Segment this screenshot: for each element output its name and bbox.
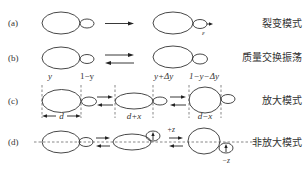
row-label-b: (b) (8, 53, 19, 63)
mass-label-y: y (47, 71, 52, 81)
right-arrow-icon (105, 22, 134, 26)
compressed-nucleus-ellipse (189, 87, 221, 113)
small-nucleus-ellipse (80, 55, 94, 64)
mass-label-1-minus-y-minus-dy: 1−y−Δy (189, 71, 219, 81)
small-nucleus-ellipse (221, 95, 235, 104)
mode-label-d: 非放大模式 (252, 136, 302, 148)
plus-z-label: +z (167, 125, 175, 134)
large-nucleus-ellipse (42, 90, 81, 113)
row-label-c: (c) (8, 96, 18, 106)
row-d: (d) +z − (8, 125, 302, 165)
stretched-nucleus-ellipse (113, 134, 151, 150)
left-arrow-icon (96, 144, 110, 147)
mode-label-c: 放大模式 (262, 94, 302, 106)
mode-label-b: 质量交换振荡 (242, 51, 302, 63)
right-arrow-icon (97, 95, 113, 98)
large-fragment-ellipse (153, 12, 193, 34)
row-a: (a) ε 裂变模式 (8, 12, 302, 37)
left-arrow-icon (169, 144, 183, 147)
row-label-d: (d) (8, 137, 19, 147)
fission-modes-diagram: (a) ε 裂变模式 (b) y 1−y y+Δy (0, 0, 308, 172)
mass-label-y-plus-dy: y+Δy (153, 71, 173, 81)
minus-z-label: −z (222, 156, 230, 165)
small-nucleus-ellipse (153, 97, 167, 105)
right-arrow-icon (105, 53, 134, 57)
row-b: (b) y 1−y y+Δy 1−y−Δy 质量交换振荡 (8, 46, 302, 81)
small-nucleus-ellipse (193, 54, 208, 64)
left-arrow-icon (105, 61, 134, 65)
row-label-a: (a) (8, 18, 18, 28)
small-nucleus-ellipse (82, 97, 97, 106)
small-nucleus-ellipse (80, 19, 94, 28)
mode-label-a: 裂变模式 (262, 17, 302, 29)
large-nucleus-ellipse (42, 12, 80, 34)
large-nucleus-ellipse (153, 46, 193, 68)
separation-arrow-icon (207, 22, 213, 25)
stretched-nucleus-ellipse (115, 93, 153, 109)
epsilon-label: ε (202, 29, 205, 37)
up-arrow-icon (151, 132, 154, 140)
up-arrow-icon (224, 144, 227, 152)
compressed-nucleus-ellipse (188, 128, 220, 154)
width-label-d: d (59, 111, 64, 121)
right-arrow-icon (169, 136, 183, 139)
width-label-d-plus-x: d+x (127, 111, 142, 121)
large-nucleus-ellipse (42, 47, 80, 69)
row-c: (c) d d+x (8, 85, 302, 121)
mass-label-1-minus-y: 1−y (80, 71, 95, 81)
width-label-d-minus-x: d−x (198, 111, 213, 121)
right-arrow-icon (170, 95, 186, 98)
left-arrow-icon (97, 103, 113, 106)
small-fragment-ellipse (193, 20, 207, 29)
right-arrow-icon (96, 136, 110, 139)
left-arrow-icon (170, 103, 186, 106)
